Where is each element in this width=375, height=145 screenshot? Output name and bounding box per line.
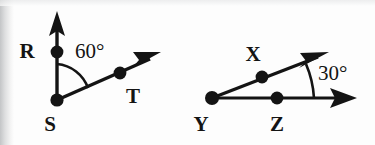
point-dot-z [271,92,284,105]
point-label-r: R [19,39,35,63]
point-label-s: S [44,112,56,136]
geometry-diagram-canvas: R S T 60° X Y Z 30° [0,0,375,145]
point-dot-r [51,46,64,59]
point-label-z: Z [270,112,284,136]
figure-angle-rst: R S T 60° [19,11,161,136]
angle-measure-label-60: 60° [75,39,104,63]
point-dot-s [50,93,63,106]
point-label-x: X [245,42,260,66]
angle-measure-label-30: 30° [318,61,347,85]
angle-arc-60-icon [57,64,88,88]
geometry-svg: R S T 60° X Y Z 30° [0,0,375,145]
point-label-t: T [126,84,140,108]
point-dot-y [205,91,219,105]
figure-angle-xyz: X Y Z 30° [193,42,357,136]
point-dot-t [114,67,127,80]
angle-arc-30-icon [306,64,314,98]
point-dot-x [256,71,269,84]
point-label-y: Y [193,112,208,136]
